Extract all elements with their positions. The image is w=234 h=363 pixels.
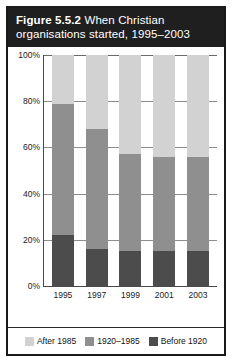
segment-after-1985[interactable]: [187, 55, 209, 157]
legend-label-1920-1985: 1920–1985: [97, 336, 140, 346]
legend-swatch-after-1985-icon: [25, 337, 34, 346]
segment-1920-1985[interactable]: [187, 157, 209, 252]
legend-swatch-1920-1985-icon: [85, 337, 94, 346]
ytick-label-20: 20%: [23, 235, 40, 245]
legend-swatch-before-1920-icon: [149, 337, 158, 346]
ytick-label-60: 60%: [23, 142, 40, 152]
segment-after-1985[interactable]: [86, 55, 108, 129]
segment-before-1920[interactable]: [153, 251, 175, 286]
figure-caption: Figure 5.5.2 When Christian organisation…: [8, 8, 224, 47]
segment-before-1920[interactable]: [119, 251, 141, 286]
legend-item-after-1985[interactable]: After 1985: [25, 336, 76, 346]
bar-group: 1995 1997 1999 20: [44, 55, 217, 286]
bar-2001[interactable]: 2001: [153, 55, 175, 286]
xtick-label-2001: 2001: [155, 290, 174, 300]
gridline-0: 0%: [44, 286, 217, 287]
xtick-label-1995: 1995: [53, 290, 72, 300]
segment-after-1985[interactable]: [119, 55, 141, 154]
segment-1920-1985[interactable]: [86, 129, 108, 249]
bar-2003[interactable]: 2003: [187, 55, 209, 286]
segment-after-1985[interactable]: [153, 55, 175, 157]
plot-area: 100% 80% 60% 40% 20% 0%: [43, 55, 217, 287]
segment-1920-1985[interactable]: [119, 154, 141, 251]
segment-1920-1985[interactable]: [52, 104, 74, 236]
legend-label-after-1985: After 1985: [37, 336, 76, 346]
ytick-label-40: 40%: [23, 189, 40, 199]
legend-item-before-1920[interactable]: Before 1920: [149, 336, 207, 346]
bar-1999[interactable]: 1999: [119, 55, 141, 286]
ytick-label-100: 100%: [18, 50, 40, 60]
chart-legend: After 1985 1920–1985 Before 1920: [8, 327, 224, 354]
figure-number: Figure 5.5.2: [16, 14, 81, 26]
chart-area: 100% 80% 60% 40% 20% 0%: [8, 47, 224, 305]
xtick-label-2003: 2003: [189, 290, 208, 300]
xtick-label-1997: 1997: [87, 290, 106, 300]
segment-1920-1985[interactable]: [153, 157, 175, 252]
ytick-label-0: 0%: [28, 281, 40, 291]
segment-before-1920[interactable]: [52, 235, 74, 286]
bar-1997[interactable]: 1997: [86, 55, 108, 286]
bar-1995[interactable]: 1995: [52, 55, 74, 286]
segment-before-1920[interactable]: [187, 251, 209, 286]
xtick-label-1999: 1999: [121, 290, 140, 300]
legend-label-before-1920: Before 1920: [161, 336, 207, 346]
ytick-label-80: 80%: [23, 96, 40, 106]
legend-item-1920-1985[interactable]: 1920–1985: [85, 336, 140, 346]
segment-before-1920[interactable]: [86, 249, 108, 286]
segment-after-1985[interactable]: [52, 55, 74, 104]
figure-frame: Figure 5.5.2 When Christian organisation…: [6, 6, 226, 356]
